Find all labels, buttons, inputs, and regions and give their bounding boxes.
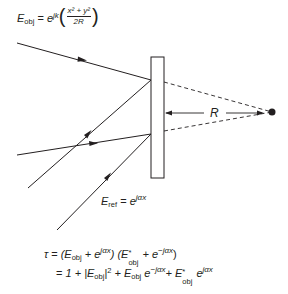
eq2-sub2: obj — [131, 272, 141, 281]
eq2-exp1: −jαx — [150, 266, 165, 274]
eq2-term6: e — [193, 267, 202, 279]
eq2-term5: + E — [166, 267, 183, 279]
eq1-exp1: jαx — [100, 247, 110, 255]
reference-ray-upper — [28, 80, 151, 188]
arrow-icon — [78, 57, 88, 62]
point-source-dot — [269, 109, 276, 116]
eq2-star: * — [182, 268, 185, 276]
eq2-term3: + E — [111, 267, 131, 279]
eobj-paren-open: ( — [59, 5, 66, 27]
eq2-sub1: obj — [94, 272, 104, 281]
reference-ray-lower — [57, 134, 151, 230]
arrow-icon — [89, 141, 98, 146]
eref-sub: ref — [108, 200, 117, 209]
eobj-equals: = — [37, 12, 43, 24]
eq1-term5: ) — [173, 248, 177, 260]
eq2-equals: = — [56, 267, 62, 279]
eq1-equals: = — [51, 248, 57, 260]
eobj-fraction: x² + y²2R — [67, 7, 91, 26]
eq2-exp2: jαx — [203, 266, 213, 274]
equation-line-2: = 1 + |Eobj|2 + Eobj e−jαx+ E*obj ejαx — [56, 266, 213, 281]
arrow-right-icon — [257, 111, 264, 116]
tau-symbol: τ — [44, 248, 48, 260]
object-wave-label: Eobj = e jk(x² + y²2R) — [17, 6, 99, 26]
arrow-icon — [104, 173, 111, 182]
eref-exponent: jαx — [136, 194, 146, 202]
eq1-term1: (E — [61, 248, 72, 260]
eref-equals: = — [120, 195, 126, 207]
eq1-term3: ) (E — [111, 248, 129, 260]
eobj-frac-den: 2R — [67, 17, 91, 26]
eobj-exponent: jk(x² + y²2R) — [53, 6, 99, 26]
eobj-sub: obj — [24, 17, 34, 26]
eq1-exp2: −jαx — [158, 247, 173, 255]
eq2-term1: 1 + |E — [66, 267, 95, 279]
eobj-paren-close: ) — [92, 5, 99, 27]
eq2-term4: e — [141, 267, 150, 279]
hologram-plate — [151, 57, 164, 178]
eq1-term4: + e — [139, 248, 158, 260]
arrow-left-icon — [165, 111, 172, 116]
eq2-sub3: obj — [182, 278, 192, 286]
eq1-term2: + e — [82, 248, 101, 260]
object-ray-upper — [17, 43, 151, 80]
distance-label: R — [210, 107, 219, 119]
reference-wave-label: Eref = ejαx — [101, 194, 146, 209]
eq1-star: * — [128, 249, 131, 257]
object-ray-lower — [17, 134, 151, 155]
equation-line-1: τ = (Eobj + ejαx) (E*obj + e−jαx) — [44, 247, 177, 262]
eq1-sub1: obj — [72, 253, 82, 262]
eobj-frac-num: x² + y² — [67, 7, 91, 17]
